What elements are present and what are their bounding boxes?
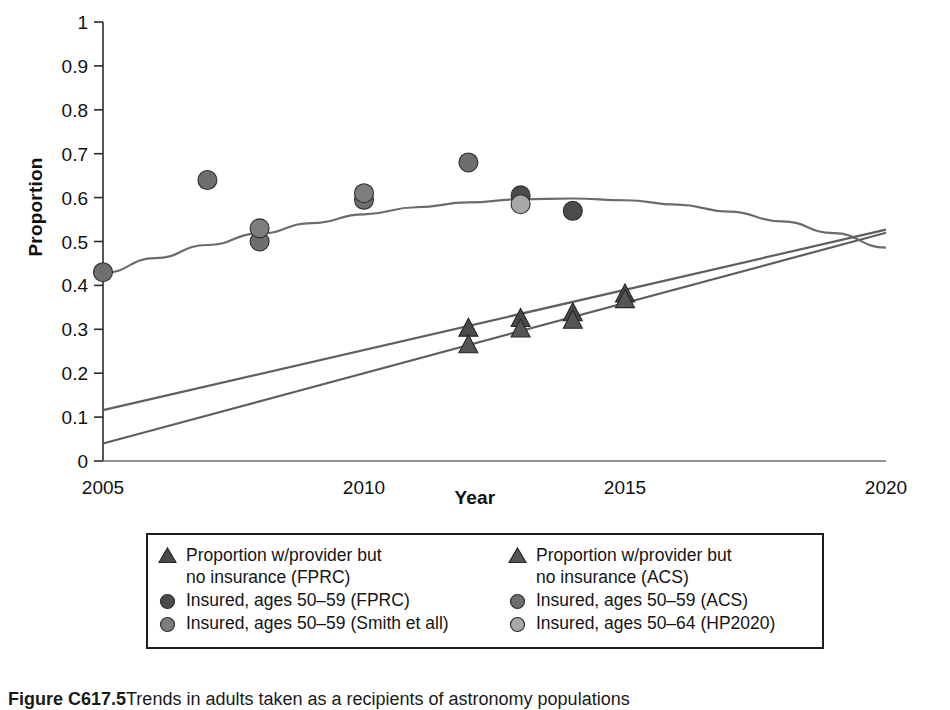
y-tick-label: 0.6: [62, 188, 88, 209]
legend-item: Insured, ages 50–59 (FPRC): [158, 589, 508, 612]
legend-item-label: Proportion w/provider but no insurance (…: [536, 544, 732, 588]
data-point-circle: [511, 195, 530, 214]
trend-line: [103, 233, 886, 444]
y-tick-label: 0.4: [62, 275, 89, 296]
legend-circle-icon: [508, 589, 527, 611]
x-axis-title: Year: [0, 487, 950, 509]
trend-line: [103, 198, 886, 273]
legend-triangle-icon: [508, 544, 527, 566]
trend-line: [103, 230, 886, 410]
caption-text: Trends in adults taken as a recipients o…: [126, 689, 630, 709]
y-tick-label: 0.1: [62, 407, 88, 428]
legend-grid: Proportion w/provider but no insurance (…: [148, 535, 822, 647]
legend-item: Insured, ages 50–64 (HP2020): [508, 612, 822, 635]
figure-container: 00.10.20.30.40.50.60.70.80.9120052010201…: [0, 0, 950, 710]
chart-svg: 00.10.20.30.40.50.60.70.80.9120052010201…: [0, 0, 950, 500]
legend-item-label: Insured, ages 50–59 (Smith et all): [186, 612, 449, 634]
legend-item: Insured, ages 50–59 (ACS): [508, 589, 822, 612]
data-point-circle: [355, 184, 374, 203]
data-point-circle: [459, 153, 478, 172]
y-tick-label: 1: [77, 12, 88, 33]
legend-item-label: Insured, ages 50–59 (ACS): [536, 589, 748, 611]
y-tick-label: 0.5: [62, 232, 88, 253]
y-axis-title: Proportion: [25, 127, 47, 287]
legend-item: Insured, ages 50–59 (Smith et all): [158, 612, 508, 635]
data-point-circle: [198, 171, 217, 190]
y-tick-label: 0.3: [62, 319, 88, 340]
data-point-circle: [250, 219, 269, 238]
data-point-circle: [94, 263, 113, 282]
legend-circle-icon: [508, 612, 527, 634]
figure-caption: Figure C617.5Trends in adults taken as a…: [8, 688, 948, 710]
legend-circle-icon: [158, 612, 177, 634]
legend-item-label: Proportion w/provider but no insurance (…: [186, 544, 382, 588]
legend-circle-icon: [158, 589, 177, 611]
legend-triangle-icon: [158, 544, 177, 566]
legend-item: Proportion w/provider but no insurance (…: [158, 544, 508, 589]
y-tick-label: 0: [77, 451, 88, 472]
y-tick-label: 0.9: [62, 56, 88, 77]
legend-item-label: Insured, ages 50–59 (FPRC): [186, 589, 410, 611]
data-point-circle: [563, 201, 582, 220]
caption-label: Figure C617.5: [8, 689, 126, 709]
y-tick-label: 0.2: [62, 363, 88, 384]
plot-area: 00.10.20.30.40.50.60.70.80.9120052010201…: [0, 0, 950, 500]
legend-item-label: Insured, ages 50–64 (HP2020): [536, 612, 775, 634]
y-tick-label: 0.7: [62, 144, 88, 165]
chart-legend: Proportion w/provider but no insurance (…: [146, 533, 824, 649]
legend-item: Proportion w/provider but no insurance (…: [508, 544, 822, 589]
y-tick-label: 0.8: [62, 100, 88, 121]
